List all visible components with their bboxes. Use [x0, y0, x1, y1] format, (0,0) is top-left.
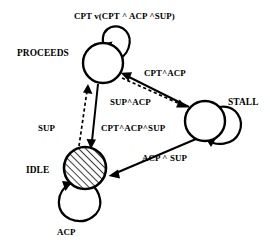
state-node-proceeds[interactable]: [83, 43, 123, 83]
state-machine-diagram: PROCEEDS STALL IDLE CPT v(CPT ^ ACP ^SUP…: [0, 0, 270, 242]
state-label-proceeds: PROCEEDS: [17, 48, 69, 58]
transition-label-proceeds-self-loop: CPT v(CPT ^ ACP ^SUP): [74, 11, 175, 21]
transition-label-proceeds-to-stall: SUP^ACP: [110, 97, 151, 107]
state-node-stall[interactable]: [185, 101, 225, 141]
transition-label-proceeds-to-idle: CPT^ACP^SUP: [101, 123, 166, 133]
state-label-idle: IDLE: [26, 165, 49, 175]
arrowhead-idle-to-proceeds: [83, 84, 93, 94]
transition-label-idle-to-proceeds: SUP: [38, 123, 56, 133]
transition-label-idle-self-loop: ACP: [57, 227, 76, 237]
transition-label-stall-to-idle: ACP ^ SUP: [142, 153, 187, 163]
state-node-idle[interactable]: [64, 147, 106, 189]
transition-label-stall-to-proceeds: CPT^ACP: [144, 68, 186, 78]
transition-idle-to-proceeds: [79, 84, 93, 146]
state-diagram-canvas: PROCEEDS STALL IDLE CPT v(CPT ^ ACP ^SUP…: [0, 0, 270, 242]
arrowhead-stall-to-idle: [109, 170, 121, 179]
state-label-stall: STALL: [228, 97, 259, 107]
